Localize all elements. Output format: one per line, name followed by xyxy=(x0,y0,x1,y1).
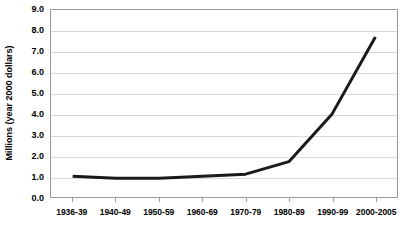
x-axis-tick-labels: 1936-391940-491950-591960-691970-791980-… xyxy=(50,207,398,227)
y-axis-tick-label: 1.0 xyxy=(31,172,44,182)
x-axis-tick-label: 1940-49 xyxy=(100,207,131,218)
y-axis-tick-label: 7.0 xyxy=(31,46,44,56)
x-axis-tick-mark xyxy=(289,198,290,202)
y-axis-title-label: Millions (year 2000 dollars) xyxy=(4,45,14,160)
x-axis-tick-mark xyxy=(72,198,73,202)
data-series-line xyxy=(51,10,397,197)
x-axis-tick-mark xyxy=(202,198,203,202)
plot-area xyxy=(50,9,398,198)
line-chart: Millions (year 2000 dollars) 0.01.02.03.… xyxy=(0,0,409,239)
y-axis-tick-label: 9.0 xyxy=(31,4,44,14)
x-axis-tick-label: 2000-2005 xyxy=(356,207,397,218)
series-polyline xyxy=(73,37,376,178)
y-axis-tick-label: 4.0 xyxy=(31,109,44,119)
y-axis-tick-label: 3.0 xyxy=(31,130,44,140)
x-axis-tick-mark xyxy=(115,198,116,202)
x-axis-tick-label: 1950-59 xyxy=(143,207,174,218)
y-axis-tick-label: 2.0 xyxy=(31,151,44,161)
x-axis-tick-label: 1980-89 xyxy=(274,207,305,218)
x-axis-tick-label: 1936-39 xyxy=(56,207,87,218)
y-axis-tick-label: 0.0 xyxy=(31,193,44,203)
x-axis-tick-label: 1960-69 xyxy=(187,207,218,218)
y-axis-tick-labels: 0.01.02.03.04.05.06.07.08.09.0 xyxy=(16,0,48,210)
x-axis-tick-label: 1970-79 xyxy=(230,207,261,218)
x-axis-tick-mark xyxy=(376,198,377,202)
x-axis-tick-mark xyxy=(246,198,247,202)
x-axis-tick-marks xyxy=(50,198,398,203)
y-axis-tick-label: 5.0 xyxy=(31,88,44,98)
y-axis-tick-label: 6.0 xyxy=(31,67,44,77)
x-axis-tick-label: 1990-99 xyxy=(317,207,348,218)
x-axis-tick-mark xyxy=(159,198,160,202)
x-axis-tick-mark xyxy=(333,198,334,202)
y-axis-tick-label: 8.0 xyxy=(31,25,44,35)
